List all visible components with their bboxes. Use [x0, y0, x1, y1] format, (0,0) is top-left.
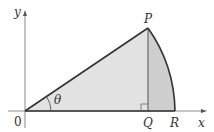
- x-axis-arrow-icon: [201, 109, 207, 113]
- origin-label: 0: [14, 115, 22, 129]
- x-axis-label: x: [198, 116, 205, 130]
- diagram-canvas: y x 0 P Q R θ: [0, 0, 214, 132]
- angle-theta-label: θ: [54, 93, 62, 107]
- point-r-label: R: [169, 116, 179, 130]
- y-axis-label: y: [13, 5, 21, 19]
- segment-pqr-region: [148, 28, 175, 111]
- point-q-label: Q: [143, 116, 153, 130]
- point-p-label: P: [143, 12, 153, 26]
- sector-diagram: y x 0 P Q R θ: [0, 0, 214, 132]
- y-axis-arrow-icon: [23, 10, 27, 16]
